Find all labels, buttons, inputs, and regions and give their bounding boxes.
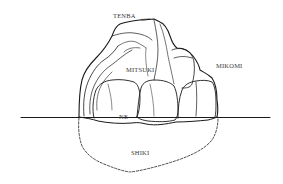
rock-block (174, 57, 192, 59)
label-shiki: SHIKI (131, 150, 149, 157)
rock-facet (154, 20, 158, 80)
rock-facet (108, 84, 112, 110)
rock-facet (90, 50, 132, 114)
rock-facet (150, 84, 154, 116)
label-mitsuki: MITSUKI (126, 67, 154, 74)
stone-diagram: TENBA MITSUKI MIKOMI NE SHIKI (0, 0, 283, 184)
label-mikomi: MIKOMI (216, 63, 242, 70)
rock-block (93, 80, 140, 118)
rock-block (196, 82, 197, 116)
tenba-leader (141, 19, 150, 20)
rock-facet (112, 33, 152, 40)
label-ne: NE (119, 114, 128, 121)
shiki-outline (79, 118, 218, 172)
rock-facet (160, 24, 174, 84)
rock-facet (118, 41, 146, 48)
rock-block (137, 80, 178, 122)
label-tenba: TENBA (113, 13, 136, 20)
rock-facet (84, 46, 118, 116)
